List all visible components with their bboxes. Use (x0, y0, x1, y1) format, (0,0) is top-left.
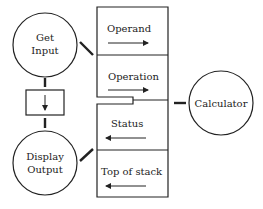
top-of-stack-label: Top of stack (101, 166, 163, 177)
field-top-of-stack: Top of stack (101, 166, 163, 186)
status-label: Status (111, 118, 143, 129)
field-operand: Operand (107, 23, 152, 43)
operation-label: Operation (108, 71, 159, 82)
calculator-label: Calculator (195, 98, 248, 109)
get-input-node: Get Input (13, 13, 77, 77)
display-output-label-2: Output (27, 164, 63, 175)
display-output-label-1: Display (26, 151, 64, 162)
flow-box (26, 90, 64, 115)
get-input-label-2: Input (31, 45, 58, 56)
get-input-connector (80, 42, 93, 55)
get-input-label-1: Get (36, 32, 54, 43)
interface-box: Operand Operation Status Top of stack (97, 7, 168, 197)
display-output-connector (80, 149, 93, 161)
operand-label: Operand (107, 23, 152, 34)
display-output-node: Display Output (13, 131, 77, 195)
calculator-node: Calculator (189, 71, 253, 135)
diagram-canvas: Get Input Display Output Operand Operati… (0, 0, 263, 209)
field-operation: Operation (108, 71, 159, 90)
field-status: Status (106, 118, 146, 138)
